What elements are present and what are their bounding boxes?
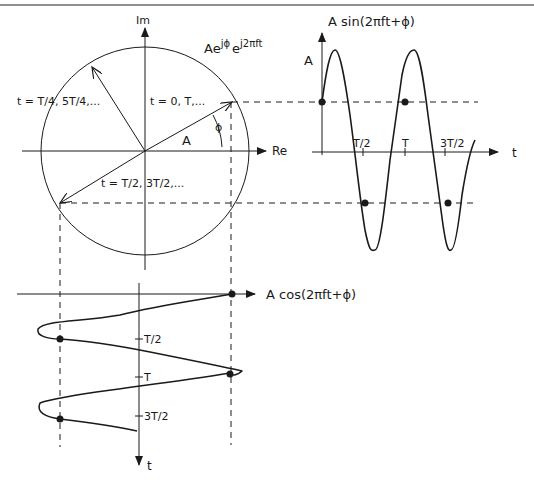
cosine-tick-label: T <box>143 371 151 384</box>
cosine-dot <box>227 371 234 378</box>
cosine-dot <box>229 291 236 298</box>
phasor-expression: Aejϕej2πft <box>204 38 263 56</box>
sine-amplitude-label: A <box>304 53 313 68</box>
rotating-phasor-diagram: Im Re A ϕ t = 0, T,... t = T/4, 5T/4,...… <box>0 0 534 483</box>
expr-sup-2: j2πft <box>239 38 263 49</box>
sine-tick-label: T <box>401 137 409 150</box>
sine-dot <box>362 200 369 207</box>
sine-dot <box>319 99 326 106</box>
vector-t0-label: t = 0, T,... <box>150 95 205 108</box>
re-axis-label: Re <box>272 144 287 158</box>
sine-plot: A sin(2πft+ϕ) A t T/2 T 3T/2 <box>304 14 517 250</box>
expr-base-2: e <box>232 41 240 56</box>
cosine-tick-label: 3T/2 <box>144 410 168 423</box>
vector-tquarter <box>92 67 145 151</box>
cosine-plot: A cos(2πft+ϕ) t T/2 T 3T/2 <box>17 283 356 473</box>
phasor-diagram: Im Re A ϕ t = 0, T,... t = T/4, 5T/4,...… <box>17 14 287 270</box>
cosine-tick-label: T/2 <box>143 333 161 346</box>
sine-dot <box>445 200 452 207</box>
cosine-dot <box>57 336 64 343</box>
sine-dot <box>402 99 409 106</box>
expr-base-1: Ae <box>204 41 221 56</box>
vector-thalf-label: t = T/2, 3T/2,... <box>101 177 184 190</box>
sine-tick-label: T/2 <box>352 137 370 150</box>
cosine-dot <box>57 416 64 423</box>
magnitude-label: A <box>182 133 191 148</box>
vector-tquarter-label: t = T/4, 5T/4,... <box>17 95 100 108</box>
sine-tick-label: 3T/2 <box>440 137 464 150</box>
sine-title: A sin(2πft+ϕ) <box>328 14 415 29</box>
cosine-t-label: t <box>147 459 152 473</box>
sine-t-label: t <box>512 146 517 160</box>
cosine-title: A cos(2πft+ϕ) <box>266 287 356 302</box>
phase-label: ϕ <box>215 121 222 134</box>
cosine-curve <box>38 294 242 431</box>
sine-curve <box>322 50 475 250</box>
expr-sup-1: jϕ <box>220 38 231 49</box>
im-axis-label: Im <box>136 14 150 27</box>
projection-lines <box>60 102 478 447</box>
